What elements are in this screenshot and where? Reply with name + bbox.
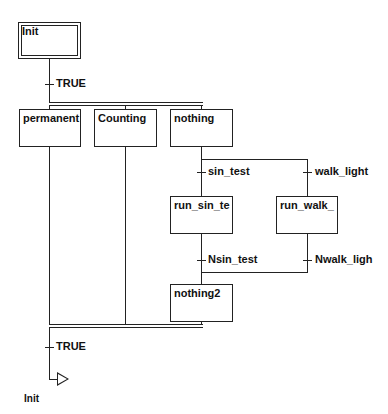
jump-arrow-icon[interactable] (57, 372, 69, 386)
selective-convergence (201, 272, 308, 273)
step-init-label: Init (22, 25, 39, 37)
selective-divergence (201, 159, 307, 160)
transition-nwalk-light-label: Nwalk_ligh (315, 253, 372, 265)
link-branch-sin (201, 159, 202, 196)
simultaneous-divergence (49, 102, 203, 106)
link-nothing-down (201, 147, 202, 159)
step-nothing[interactable]: nothing (170, 109, 233, 147)
step-counting-label: Counting (98, 112, 146, 124)
step-nothing-label: nothing (174, 112, 214, 124)
link-init-down (49, 59, 50, 103)
transition-walk-light-label: walk_light (315, 165, 368, 177)
link-run-walk-down (307, 234, 308, 273)
transition-true-init[interactable] (45, 84, 54, 85)
transition-true-init-label: TRUE (56, 77, 86, 89)
transition-walk-light[interactable] (303, 172, 312, 173)
link-branch-walk (307, 159, 308, 196)
step-run-sin-test-label: run_sin_te (174, 199, 230, 211)
sfc-diagram: Init TRUE permanent Counting nothing sin… (0, 0, 388, 414)
transition-true-final-label: TRUE (56, 340, 86, 352)
step-nothing2[interactable]: nothing2 (170, 284, 233, 322)
transition-sin-test-label: sin_test (208, 165, 250, 177)
step-run-walk-light-label: run_walk_ (280, 199, 334, 211)
transition-nsin-test-label: Nsin_test (208, 253, 258, 265)
step-permanent-label: permanent (23, 112, 79, 124)
transition-sin-test[interactable] (197, 172, 206, 173)
simultaneous-convergence (49, 324, 203, 328)
link-permanent-down (49, 147, 50, 324)
step-permanent[interactable]: permanent (19, 109, 81, 147)
transition-nwalk-light[interactable] (303, 260, 312, 261)
step-run-sin-test[interactable]: run_sin_te (170, 196, 233, 234)
link-to-jump (49, 379, 57, 380)
step-run-walk-light[interactable]: run_walk_ (276, 196, 338, 234)
transition-true-final[interactable] (45, 347, 54, 348)
transition-nsin-test[interactable] (197, 260, 206, 261)
step-nothing2-label: nothing2 (174, 287, 220, 299)
jump-target-label: Init (24, 393, 39, 404)
step-init[interactable]: Init (18, 22, 81, 59)
link-final-down (49, 328, 50, 379)
link-counting-down (125, 147, 126, 324)
step-counting[interactable]: Counting (94, 109, 157, 147)
